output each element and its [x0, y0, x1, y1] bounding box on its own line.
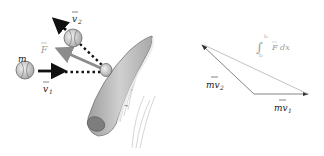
mv1-label: mv 1	[274, 100, 292, 114]
svg-text:F: F	[40, 45, 48, 55]
momentum-triangle-figure: ∫ t₂ t₁ F dx mv 2 mv 1	[202, 33, 308, 114]
svg-text:mv: mv	[274, 103, 288, 113]
impulse-integral-label: ∫ t₂ t₁ F dx	[256, 33, 290, 58]
force-label: F	[40, 43, 48, 55]
ball-outgoing	[64, 29, 82, 47]
svg-text:mv: mv	[206, 80, 220, 90]
svg-text:v: v	[72, 14, 77, 24]
mass-label: m	[18, 54, 27, 64]
v2-label: v 2	[72, 12, 82, 25]
v2-arrow	[56, 21, 66, 30]
svg-text:F dx: F dx	[271, 43, 290, 52]
svg-text:2: 2	[77, 18, 82, 25]
svg-text:t₁: t₁	[259, 52, 263, 58]
bat-collision-figure: m v 1 v 2 F	[16, 12, 155, 148]
mv2-label: mv 2	[206, 77, 224, 91]
svg-text:t₂: t₂	[264, 33, 268, 39]
svg-text:1: 1	[49, 88, 53, 95]
svg-text:1: 1	[288, 107, 292, 114]
svg-text:2: 2	[219, 84, 224, 91]
ball-contact	[100, 64, 112, 77]
svg-text:v: v	[43, 84, 48, 94]
v1-label: v 1	[43, 82, 53, 95]
momentum-impulse-diagram: m v 1 v 2 F ∫ t₂ t₁ F dx	[0, 0, 324, 156]
